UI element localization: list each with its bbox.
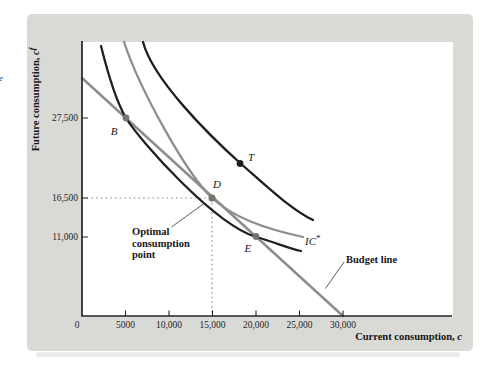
point-label-T: T (248, 151, 255, 163)
x-tick-label-30000: 30,000 (330, 320, 356, 330)
y-axis-title-text: Future consumption, (30, 55, 41, 151)
point-dot-T (237, 160, 244, 167)
point-dot-D-optimal (209, 195, 216, 202)
ic-star-label-base: IC (304, 235, 317, 247)
chart-canvas: e 27,500 16,500 11,000 0 5000 10,000 15,… (0, 0, 493, 372)
x-axis-title-text: Current consumption, (355, 331, 457, 342)
x-tick-label-25000: 25,000 (286, 320, 312, 330)
y-tick-label-27500: 27,500 (52, 113, 78, 123)
x-axis-title-variable: c (457, 331, 462, 342)
x-tick-label-20000: 20,000 (243, 320, 269, 330)
x-axis-title: Current consumption, c (355, 331, 462, 342)
figure: e 27,500 16,500 11,000 0 5000 10,000 15,… (0, 0, 493, 372)
x-tick-label-15000: 15,000 (199, 320, 225, 330)
y-axis-title: Future consumption, cf (28, 46, 41, 151)
point-label-B: B (111, 125, 118, 137)
x-tick-label-5000: 5000 (116, 320, 135, 330)
budget-line-annotation: Budget line (346, 254, 397, 265)
optimal-annotation-line3: point (132, 249, 156, 260)
optimal-annotation-line2: consumption (132, 238, 190, 249)
point-label-D: D (212, 178, 221, 190)
point-dot-E (253, 233, 260, 240)
x-tick-label-0: 0 (75, 320, 80, 330)
y-tick-label-11000: 11,000 (52, 232, 78, 242)
optimal-annotation-line1: Optimal (132, 226, 169, 237)
page-edge-artifact: e (0, 73, 3, 83)
point-dot-B (123, 115, 130, 122)
panel-shadow (36, 352, 460, 357)
ic-star-label-superscript: * (316, 233, 321, 243)
x-tick-label-10000: 10,000 (156, 320, 182, 330)
y-tick-label-16500: 16,500 (52, 193, 78, 203)
point-label-E: E (244, 242, 252, 254)
plot-area (82, 42, 453, 316)
